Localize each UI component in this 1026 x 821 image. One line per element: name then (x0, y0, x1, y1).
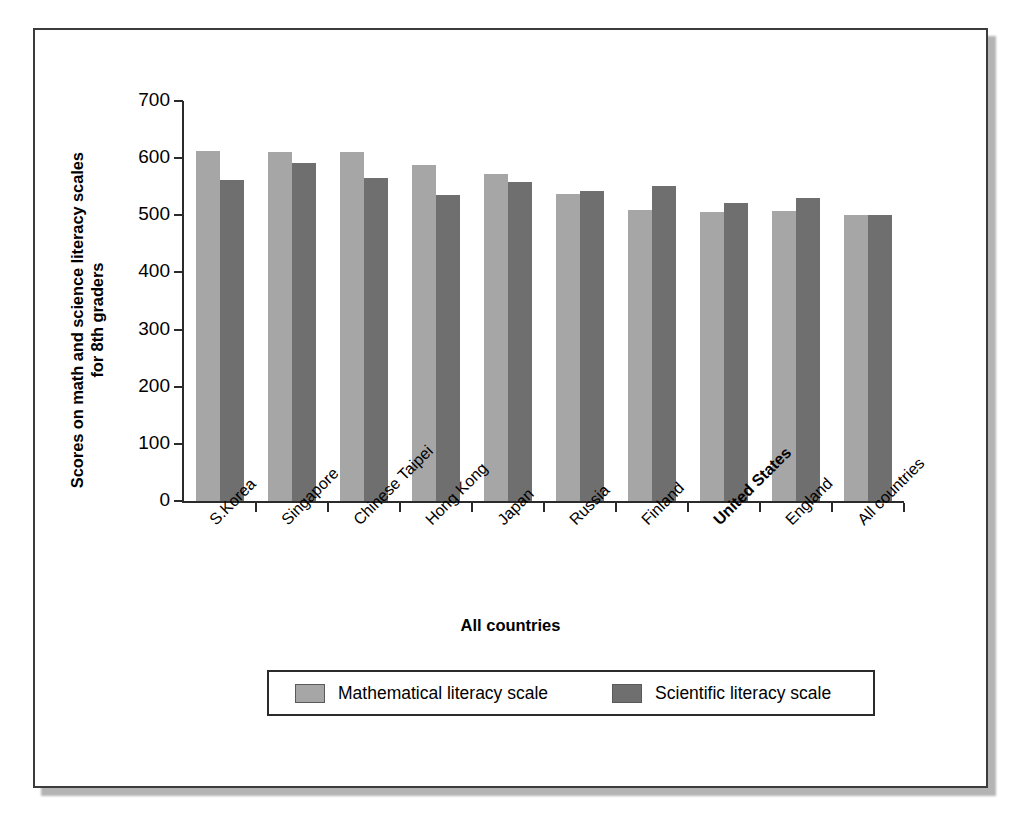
x-axis-title: All countries (35, 616, 986, 635)
y-tick-mark (174, 271, 183, 273)
bar-math (700, 212, 724, 501)
bar-science (364, 178, 388, 501)
bar-science (796, 198, 820, 501)
chart-legend: Mathematical literacy scale Scientific l… (267, 670, 875, 716)
science-swatch-icon (612, 684, 642, 703)
y-tick-mark (174, 386, 183, 388)
x-tick-mark (687, 503, 689, 512)
bar-math (196, 151, 220, 501)
bar-science (508, 182, 532, 501)
bar-math (844, 215, 868, 501)
y-axis-title: Scores on math and science literacy scal… (67, 150, 107, 490)
legend-entry-science: Scientific literacy scale (612, 683, 831, 704)
bars-layer (184, 101, 904, 501)
x-tick-mark (399, 503, 401, 512)
y-tick-mark (174, 329, 183, 331)
bar-math (268, 152, 292, 501)
x-tick-mark (831, 503, 833, 512)
x-tick-mark (903, 503, 905, 512)
bar-science (580, 191, 604, 501)
bar-math (340, 152, 364, 501)
y-tick-label: 400 (108, 260, 170, 282)
x-tick-mark (471, 503, 473, 512)
y-tick-label: 0 (108, 489, 170, 511)
plot-region: Scores on math and science literacy scal… (35, 30, 986, 786)
x-tick-mark (543, 503, 545, 512)
bar-science (652, 186, 676, 501)
x-tick-mark (759, 503, 761, 512)
legend-label-math: Mathematical literacy scale (338, 683, 548, 704)
legend-label-science: Scientific literacy scale (655, 683, 831, 704)
y-tick-mark (174, 100, 183, 102)
y-tick-label: 100 (108, 432, 170, 454)
y-tick-label: 600 (108, 146, 170, 168)
y-tick-label: 500 (108, 203, 170, 225)
bar-science (724, 203, 748, 501)
x-tick-mark (327, 503, 329, 512)
legend-entry-math: Mathematical literacy scale (295, 683, 548, 704)
bar-science (436, 195, 460, 501)
y-tick-mark (174, 500, 183, 502)
bar-math (484, 174, 508, 501)
math-swatch-icon (295, 684, 325, 703)
bar-science (292, 163, 316, 501)
y-tick-mark (174, 443, 183, 445)
y-tick-label: 200 (108, 375, 170, 397)
x-tick-mark (615, 503, 617, 512)
y-tick-label: 300 (108, 318, 170, 340)
chart-figure-frame: Scores on math and science literacy scal… (33, 28, 988, 788)
x-tick-mark (255, 503, 257, 512)
bar-science (868, 215, 892, 501)
bar-science (220, 180, 244, 501)
y-tick-label: 700 (108, 89, 170, 111)
bar-math (556, 194, 580, 501)
y-tick-mark (174, 214, 183, 216)
bar-math (628, 210, 652, 501)
y-tick-mark (174, 157, 183, 159)
